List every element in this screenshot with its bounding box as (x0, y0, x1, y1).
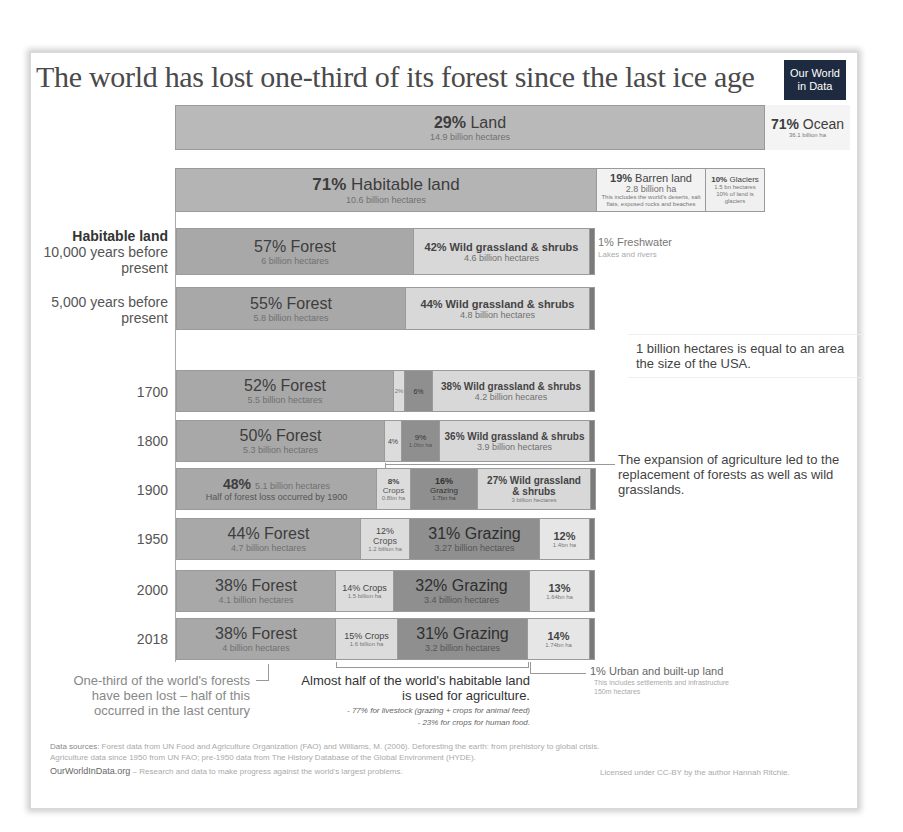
barren-sub: 2.8 billion ha (626, 184, 677, 194)
bar-2000: 38% Forest 4.1 billion hectares 14% Crop… (176, 570, 595, 612)
grazing-label: Grazing (430, 486, 458, 495)
logo-line2: in Data (784, 80, 846, 93)
land-sub: 14.9 billion hectares (430, 132, 510, 142)
other-sub: 1.64bn ha (546, 594, 573, 601)
forest-label: 55% Forest (250, 295, 332, 313)
forest-sub: 5.3 billion hectares (243, 445, 318, 455)
crops-segment: 14% Crops 1.5 billion ha (336, 570, 394, 612)
other-segment: 12% 1.4bn ha (540, 518, 590, 560)
row-label-1950: 1950 (40, 531, 168, 547)
grazing-segment: 9% 1.0bn ha (402, 420, 440, 462)
urban-annotation-sub2: 150m hectares (594, 688, 640, 695)
habitable-pct: 71% (312, 175, 346, 194)
land-label: Land (470, 114, 506, 131)
other-label: 12% (553, 530, 575, 542)
grazing-label: 31% Grazing (428, 525, 521, 543)
forest-segment: 50% Forest 5.3 billion hectares (176, 420, 385, 462)
wild-label: 27% Wild grassland (487, 475, 581, 486)
grazing-sub: 1.0bn ha (409, 442, 432, 449)
bracket-line (385, 464, 615, 465)
forest-sub: 5.5 billion hectares (247, 395, 322, 405)
other-sub: 1.4bn ha (553, 542, 576, 549)
row-label-2000: 2000 (40, 582, 168, 598)
bracket-line (530, 673, 586, 674)
bracket-line (256, 680, 269, 681)
grazing-pct: 16% (435, 476, 453, 486)
crops-pct: 8% (388, 477, 400, 486)
forest-segment: 48% 5.1 billion hectares Half of forest … (176, 468, 377, 510)
bracket-line (268, 664, 269, 680)
glaciers-segment: 10% Glaciers 1.5 bn hectares 10% of land… (706, 168, 765, 212)
row-label-10k: Habitable land 10,000 years before prese… (40, 228, 168, 276)
bar-10k: 57% Forest 6 billion hectares 42% Wild g… (176, 228, 595, 275)
forest-sub: 4 billion hectares (222, 643, 290, 653)
forest-label: 50% Forest (240, 427, 322, 445)
grazing-label: 6% (413, 388, 423, 395)
row-label-10k-text: 10,000 years before present (43, 244, 168, 276)
freshwater-segment (590, 228, 595, 275)
sources-text: Forest data from UN Food and Agriculture… (102, 742, 600, 751)
logo-line1: Our World (784, 67, 846, 80)
freshwater-segment (590, 287, 595, 330)
freshwater-label: 1% Freshwater (598, 236, 672, 248)
footer-sources: Data sources: Forest data from UN Food a… (50, 742, 600, 751)
ocean-sub: 36.1 billion ha (789, 132, 826, 139)
forest-lost-annotation: One-third of the world's forests have be… (55, 673, 250, 718)
wild-sub: 3 billion hectares (511, 497, 556, 504)
other-segment: 14% 1.74bn ha (528, 618, 590, 660)
land-pct: 29% (434, 114, 466, 131)
urban-segment (590, 420, 595, 462)
grazing-sub: 1.7bn ha (432, 495, 455, 502)
barren-segment: 19% Barren land 2.8 billion ha This incl… (597, 168, 706, 212)
forest-sub: 4.1 billion hectares (218, 595, 293, 605)
crops-label: 2% (395, 388, 404, 395)
forest-segment: 44% Forest 4.7 billion hectares (176, 518, 361, 560)
urban-annotation-sub1: This includes settlements and infrastruc… (594, 679, 729, 686)
forest-label: 44% Forest (228, 525, 310, 543)
ocean-label: Ocean (803, 116, 844, 132)
urban-segment (590, 518, 595, 560)
crops-pct: 12% (376, 526, 394, 536)
grazing-sub: 3.27 billion hectares (434, 543, 514, 553)
site-link[interactable]: OurWorldInData.org (50, 766, 130, 776)
habitable-sub: 10.6 billion hectares (346, 195, 426, 205)
earth-bar: 29% Land 14.9 billion hectares 71% Ocean… (175, 105, 850, 150)
forest-label: 48% (223, 476, 251, 492)
sources-text-2: Agriculture data since 1950 from UN FAO;… (50, 753, 476, 762)
wild-segment: 38% Wild grassland & shrubs 4.2 billion … (433, 370, 590, 412)
land-segment: 29% Land 14.9 billion hectares (175, 105, 765, 150)
crops-segment: 2% (394, 370, 405, 412)
row-label-10k-bold: Habitable land (72, 228, 168, 244)
crops-label: 15% Crops (344, 631, 389, 641)
row-label-1900: 1900 (40, 482, 168, 498)
forest-sub: Half of forest loss occurred by 1900 (206, 492, 348, 502)
row-label-1800: 1800 (40, 433, 168, 449)
owid-logo[interactable]: Our World in Data (784, 60, 846, 100)
bar-1800: 50% Forest 5.3 billion hectares 4% 9% 1.… (176, 420, 595, 462)
other-segment: 13% 1.64bn ha (530, 570, 590, 612)
row-label-1700: 1700 (40, 384, 168, 400)
glaciers-note: 10% of land is glaciers (709, 191, 761, 205)
grazing-sub: 3.2 billion hectares (425, 643, 500, 653)
wild-segment: 36% Wild grassland & shrubs 3.9 billion … (440, 420, 590, 462)
glaciers-pct: 10% (711, 175, 727, 184)
agriculture-annotation-line1: - 77% for livestock (grazing + crops for… (290, 706, 530, 715)
forest-sub: 4.7 billion hectares (231, 543, 306, 553)
crops-sub: 0.8bn ha (382, 495, 405, 502)
forest-label: 38% Forest (215, 625, 297, 643)
grazing-sub: 3.4 billion hectares (424, 595, 499, 605)
wild-sub: 4.8 billion hectares (460, 310, 535, 320)
footer-license: Licensed under CC-BY by the author Hanna… (600, 768, 790, 777)
barren-pct: 19% (610, 172, 632, 184)
grazing-label: 32% Grazing (415, 577, 508, 595)
crops-segment: 12% Crops 1.2 billion ha (361, 518, 410, 560)
bar-1900: 48% 5.1 billion hectares Half of forest … (176, 468, 596, 510)
bracket-line (528, 662, 529, 668)
crops-sub: 1.2 billion ha (368, 546, 402, 553)
ocean-segment: 71% Ocean 36.1 billion ha (765, 105, 850, 150)
urban-segment (590, 618, 595, 660)
grazing-segment: 31% Grazing 3.27 billion hectares (410, 518, 540, 560)
wild-label: 42% Wild grassland & shrubs (425, 241, 579, 253)
forest-segment: 38% Forest 4.1 billion hectares (176, 570, 336, 612)
grazing-segment: 16% Grazing 1.7bn ha (411, 468, 478, 510)
